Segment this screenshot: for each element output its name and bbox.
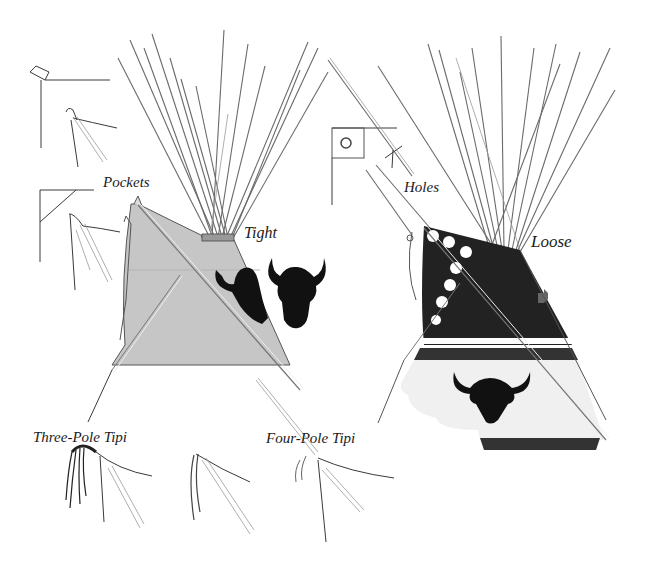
tie-detail-3 — [256, 378, 394, 542]
right-tipi-poles — [378, 36, 615, 252]
pocket-detail-1 — [30, 66, 117, 167]
right-tipi-cover — [378, 226, 609, 450]
label-loose: Loose — [531, 233, 572, 250]
left-tipi-poles — [118, 30, 328, 240]
buffalo-head-standalone — [268, 258, 326, 328]
label-three-pole-tipi: Three-Pole Tipi — [33, 430, 127, 445]
tie-detail-1 — [66, 446, 152, 528]
tipi-illustration — [0, 0, 650, 571]
label-four-pole-tipi: Four-Pole Tipi — [266, 431, 355, 446]
hole-detail — [328, 58, 430, 235]
pocket-detail-2 — [40, 190, 120, 290]
tie-detail-2 — [191, 454, 254, 534]
label-holes: Holes — [404, 180, 439, 195]
label-tight: Tight — [244, 225, 277, 241]
label-pockets: Pockets — [103, 175, 150, 190]
